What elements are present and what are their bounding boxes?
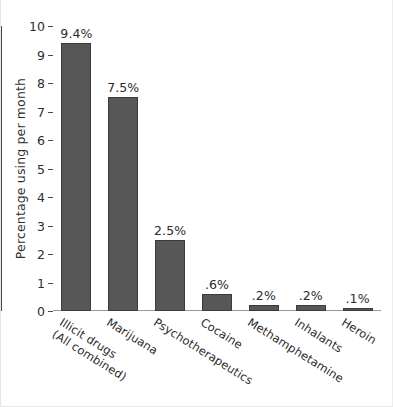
bar-value-label: 9.4%	[60, 26, 92, 41]
bar-value-label: .2%	[252, 288, 276, 303]
y-axis-tick-mark	[48, 112, 53, 113]
y-axis-tick-label: 0	[37, 304, 45, 319]
y-axis-tick-mark	[48, 254, 53, 255]
plot-area: 012345678910 9.4%7.5%2.5%.6%.2%.2%.1%	[53, 26, 381, 311]
y-axis-spine	[1, 26, 2, 311]
y-axis-tick-mark	[48, 226, 53, 227]
bar-value-label: .2%	[299, 288, 323, 303]
bar: .6%	[202, 294, 232, 311]
y-axis-tick-mark	[48, 26, 53, 27]
bar: 9.4%	[61, 43, 91, 311]
y-axis-tick-label: 2	[37, 247, 45, 262]
y-axis-tick-label: 8	[37, 76, 45, 91]
y-axis-title: Percentage using per month	[13, 26, 31, 311]
y-axis-tick-mark	[48, 197, 53, 198]
bar: 2.5%	[155, 240, 185, 311]
bar: 7.5%	[108, 97, 138, 311]
y-axis-tick-mark	[48, 140, 53, 141]
y-axis-tick-mark	[48, 169, 53, 170]
bar: .1%	[343, 308, 373, 311]
y-axis-tick-label: 9	[37, 47, 45, 62]
bar-chart-figure: Percentage using per month 012345678910 …	[0, 0, 393, 407]
bar-value-label: 7.5%	[107, 80, 139, 95]
y-axis-tick-label: 4	[37, 190, 45, 205]
y-axis-tick-label: 7	[37, 104, 45, 119]
y-axis-tick-label: 3	[37, 218, 45, 233]
y-axis-tick-label: 1	[37, 275, 45, 290]
y-axis-tick-mark	[48, 55, 53, 56]
bar: .2%	[249, 305, 279, 311]
y-axis-tick-mark	[48, 283, 53, 284]
y-axis-tick-label: 5	[37, 161, 45, 176]
bar-value-label: .1%	[346, 291, 370, 306]
bar-value-label: 2.5%	[154, 223, 186, 238]
bar: .2%	[296, 305, 326, 311]
y-axis-tick-label: 6	[37, 133, 45, 148]
bar-value-label: .6%	[205, 277, 229, 292]
y-axis-tick-mark	[48, 311, 53, 312]
y-axis-tick-mark	[48, 83, 53, 84]
y-axis-tick-label: 10	[29, 19, 45, 34]
